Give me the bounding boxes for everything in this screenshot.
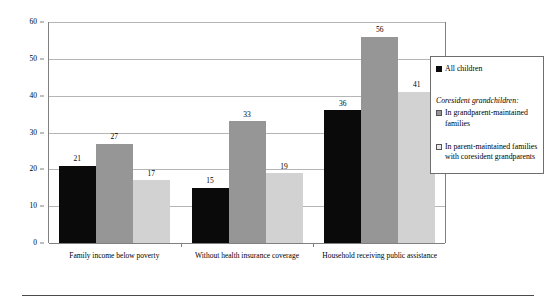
bar-value-label: 21 (59, 155, 96, 163)
y-tick-mark (40, 243, 44, 244)
bar-group: 153319 (192, 22, 303, 243)
gray-square-icon (436, 110, 442, 116)
light-gray-square-icon (436, 144, 442, 150)
gridline (49, 243, 445, 244)
bar-value-label: 19 (266, 163, 303, 171)
x-tick-mark (313, 243, 314, 247)
bar (229, 121, 266, 243)
y-tick-mark (40, 95, 44, 96)
black-square-icon (436, 66, 442, 72)
bar (192, 188, 229, 243)
legend-item-all-children: All children (436, 64, 538, 74)
legend-subtitle: Coresident grandchildren: (436, 96, 538, 106)
y-tick-mark (40, 22, 44, 23)
y-tick-label: 0 (33, 239, 37, 247)
x-axis: Family income below povertyWithout healt… (48, 252, 446, 268)
bar (324, 110, 361, 243)
bar-value-label: 36 (324, 100, 361, 108)
y-tick-label: 40 (30, 92, 38, 100)
legend-item-label: All children (445, 64, 482, 74)
bar-chart-figure: 0102030405060 212717153319365641 Family … (0, 0, 556, 305)
y-tick-mark (40, 206, 44, 207)
bar-group: 365641 (324, 22, 435, 243)
legend-item-label: In parent-maintained families with cores… (445, 142, 538, 163)
x-category-label: Without health insurance coverage (195, 252, 299, 260)
bar-value-label: 27 (96, 133, 133, 141)
bar (266, 173, 303, 243)
bar (59, 166, 96, 243)
bar (361, 37, 398, 243)
legend-spacer (436, 76, 538, 87)
bars-layer: 212717153319365641 (48, 22, 446, 243)
y-tick-label: 20 (30, 166, 38, 174)
y-tick-mark (40, 169, 44, 170)
bar (96, 144, 133, 243)
x-tick-mark (181, 243, 182, 247)
bar-group: 212717 (59, 22, 170, 243)
y-tick-label: 60 (30, 18, 38, 26)
y-tick-mark (40, 132, 44, 133)
legend-item-label: In grandparent-maintained families (445, 108, 538, 129)
bar-value-label: 33 (229, 111, 266, 119)
y-tick-mark (40, 58, 44, 59)
y-tick-label: 10 (30, 202, 38, 210)
y-axis: 0102030405060 (0, 22, 44, 243)
x-category-label: Family income below poverty (69, 252, 159, 260)
chart-legend: All children Coresident grandchildren: I… (430, 56, 544, 174)
legend-item-grandparent-maintained: In grandparent-maintained families (436, 108, 538, 129)
bar-value-label: 15 (192, 177, 229, 185)
legend-spacer (436, 131, 538, 142)
y-tick-label: 50 (30, 55, 38, 63)
bar-value-label: 17 (133, 170, 170, 178)
footer-divider (22, 295, 534, 296)
x-category-label: Household receiving public assistance (322, 252, 437, 260)
bar-value-label: 56 (361, 26, 398, 34)
legend-item-parent-maintained: In parent-maintained families with cores… (436, 142, 538, 163)
y-tick-label: 30 (30, 129, 38, 137)
bar (133, 180, 170, 243)
